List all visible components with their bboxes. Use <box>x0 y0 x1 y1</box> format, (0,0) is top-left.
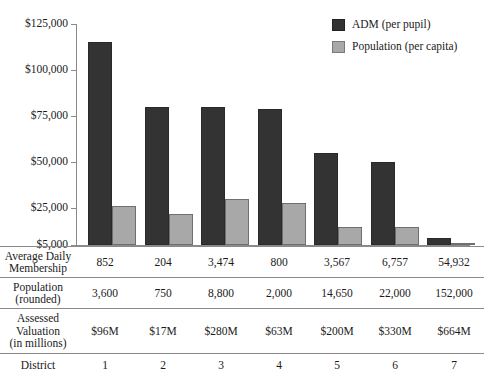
y-tick-mark <box>71 24 76 25</box>
table-cell: $96M <box>76 309 134 354</box>
bar-adm-district-4 <box>258 109 282 245</box>
table-cell: $63M <box>250 309 308 354</box>
bar-group-district-6 <box>371 24 425 245</box>
table-row-label: AssessedValuation(in millions) <box>0 309 76 354</box>
table-cell: 152,000 <box>424 278 484 309</box>
table-cell: 2 <box>134 354 192 377</box>
bar-group-district-5 <box>314 24 368 245</box>
y-tick-label: $25,000 <box>0 202 68 214</box>
table-cell: 4 <box>250 354 308 377</box>
bar-population-district-5 <box>338 227 362 245</box>
bar-population-district-3 <box>225 199 249 245</box>
bar-population-district-2 <box>169 214 193 245</box>
table-row-label: Population(rounded) <box>0 278 76 309</box>
table-row: Average DailyMembership8522043,4748003,5… <box>0 247 484 278</box>
y-tick-label: $75,000 <box>0 110 68 122</box>
y-tick-label: $50,000 <box>0 156 68 168</box>
table-cell: 3,567 <box>308 247 366 278</box>
bar-population-district-7 <box>451 243 475 245</box>
bar-adm-district-2 <box>145 107 169 245</box>
bar-group-district-2 <box>145 24 199 245</box>
table-cell: 6,757 <box>366 247 424 278</box>
bar-population-district-1 <box>112 206 136 245</box>
bar-chart-figure: ADM (per pupil) Population (per capita) … <box>0 0 484 390</box>
bar-adm-district-6 <box>371 162 395 245</box>
table-row: District1234567 <box>0 354 484 377</box>
table-cell: 54,932 <box>424 247 484 278</box>
bar-adm-district-3 <box>201 107 225 245</box>
table-cell: $664M <box>424 309 484 354</box>
y-tick-label: $125,000 <box>0 18 68 30</box>
bar-adm-district-1 <box>88 42 112 245</box>
bar-group-district-7 <box>427 24 481 245</box>
bar-population-district-6 <box>395 227 419 245</box>
table-cell: 204 <box>134 247 192 278</box>
table-cell: 3 <box>192 354 250 377</box>
table-cell: 800 <box>250 247 308 278</box>
y-tick-mark <box>71 162 76 163</box>
bar-group-district-1 <box>88 24 142 245</box>
bar-group-district-4 <box>258 24 312 245</box>
table-cell: $200M <box>308 309 366 354</box>
table-cell: 14,650 <box>308 278 366 309</box>
table-cell: 22,000 <box>366 278 424 309</box>
table-cell: 6 <box>366 354 424 377</box>
y-tick-mark <box>71 116 76 117</box>
table-cell: 852 <box>76 247 134 278</box>
table-row-label: District <box>0 354 76 377</box>
plot-area: $125,000$100,000$75,000$50,000$25,000$5,… <box>76 24 470 246</box>
table-row: AssessedValuation(in millions)$96M$17M$2… <box>0 309 484 354</box>
table-cell: 5 <box>308 354 366 377</box>
y-tick-label: $100,000 <box>0 64 68 76</box>
table-cell: $330M <box>366 309 424 354</box>
y-tick-mark <box>71 70 76 71</box>
bar-population-district-4 <box>282 203 306 245</box>
table-cell: 7 <box>424 354 484 377</box>
bar-adm-district-5 <box>314 153 338 245</box>
bar-group-district-3 <box>201 24 255 245</box>
table-cell: 3,600 <box>76 278 134 309</box>
table-cell: 3,474 <box>192 247 250 278</box>
y-axis-line <box>76 24 77 246</box>
table-cell: 1 <box>76 354 134 377</box>
table-cell: $17M <box>134 309 192 354</box>
table-cell: 8,800 <box>192 278 250 309</box>
table-row: Population(rounded)3,6007508,8002,00014,… <box>0 278 484 309</box>
bar-adm-district-7 <box>427 238 451 245</box>
y-tick-mark <box>71 208 76 209</box>
table-cell: 2,000 <box>250 278 308 309</box>
table-row-label: Average DailyMembership <box>0 247 76 278</box>
table-cell: 750 <box>134 278 192 309</box>
data-table: Average DailyMembership8522043,4748003,5… <box>0 246 484 376</box>
table-cell: $280M <box>192 309 250 354</box>
